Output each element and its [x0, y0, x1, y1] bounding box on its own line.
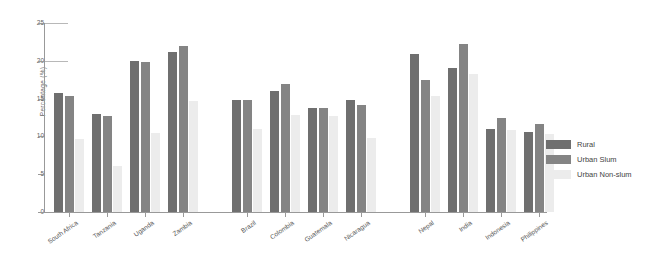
bar-group — [168, 23, 198, 212]
y-gridline-stub — [45, 61, 68, 62]
bar — [54, 93, 63, 212]
chart-legend: RuralUrban SlumUrban Non-slum — [546, 137, 632, 182]
y-tick: 20 — [0, 61, 44, 62]
x-tick-mark — [183, 213, 184, 217]
plot-area — [45, 23, 547, 212]
bar — [431, 96, 440, 212]
x-axis-category-label: Zambia — [171, 219, 193, 237]
x-tick-mark — [323, 213, 324, 217]
bar — [232, 100, 241, 212]
x-axis-category-label: Uganda — [132, 219, 155, 238]
bar — [535, 124, 544, 212]
bar — [346, 100, 355, 212]
bar-group — [486, 23, 516, 212]
legend-swatch — [546, 155, 571, 164]
y-tick: 15 — [0, 99, 44, 100]
x-tick-mark — [463, 213, 464, 217]
x-tick-mark — [361, 213, 362, 217]
y-tick: 5 — [0, 174, 44, 175]
bar — [507, 130, 516, 212]
x-axis-category-label: Indonesia — [484, 219, 511, 241]
bar — [486, 129, 495, 212]
bar — [367, 138, 376, 212]
x-axis-category-label: Colombia — [268, 219, 295, 240]
bar-group — [54, 23, 84, 212]
legend-label: Urban Slum — [577, 155, 617, 164]
x-tick-mark — [107, 213, 108, 217]
bar-group — [92, 23, 122, 212]
y-tick-mark — [38, 174, 44, 175]
bar — [168, 52, 177, 212]
bar — [141, 62, 150, 212]
x-tick-mark — [247, 213, 248, 217]
legend-item[interactable]: Rural — [546, 137, 632, 152]
bar-group — [130, 23, 160, 212]
bar — [357, 105, 366, 212]
bar — [281, 84, 290, 212]
bar — [130, 61, 139, 212]
legend-label: Urban Non-slum — [577, 170, 632, 179]
bar-group — [346, 23, 376, 212]
x-tick-mark — [285, 213, 286, 217]
bar — [497, 118, 506, 212]
x-tick-mark — [69, 213, 70, 217]
bar — [189, 101, 198, 212]
y-gridline-stub — [45, 23, 68, 24]
x-axis-category-label: Nepal — [417, 219, 435, 234]
bar — [410, 54, 419, 212]
x-axis-category-label: South Africa — [46, 219, 79, 245]
bar-group — [232, 23, 262, 212]
bar — [524, 132, 533, 212]
bar — [103, 116, 112, 212]
bar-chart: Percentage (%) 0510152025 South AfricaTa… — [0, 0, 658, 263]
y-tick: 25 — [0, 23, 44, 24]
x-tick-mark — [539, 213, 540, 217]
y-tick: 0 — [0, 212, 44, 213]
legend-item[interactable]: Urban Non-slum — [546, 167, 632, 182]
x-axis-category-label: India — [457, 219, 473, 233]
bar — [113, 166, 122, 212]
x-axis-category-label: Nicaragua — [343, 219, 371, 242]
y-tick-mark — [38, 23, 44, 24]
legend-label: Rural — [577, 140, 595, 149]
bar — [253, 129, 262, 212]
bar — [65, 96, 74, 212]
x-tick-mark — [425, 213, 426, 217]
x-axis-category-label: Tanzania — [92, 219, 117, 240]
bar — [270, 91, 279, 212]
bar — [243, 100, 252, 212]
bar — [151, 133, 160, 212]
x-axis-category-label: Philippines — [519, 219, 549, 243]
bar-group — [448, 23, 478, 212]
legend-item[interactable]: Urban Slum — [546, 152, 632, 167]
x-tick-mark — [145, 213, 146, 217]
bar — [459, 44, 468, 212]
bar-group — [524, 23, 554, 212]
bar — [92, 114, 101, 212]
bar-group — [410, 23, 440, 212]
y-tick-mark — [38, 99, 44, 100]
bar-group — [308, 23, 338, 212]
bar — [329, 116, 338, 212]
bar — [75, 139, 84, 212]
bar — [469, 74, 478, 212]
bar — [291, 115, 300, 212]
legend-swatch — [546, 170, 571, 179]
legend-swatch — [546, 140, 571, 149]
x-tick-mark — [501, 213, 502, 217]
x-axis-category-label: Guatemala — [303, 219, 333, 243]
y-tick-mark — [38, 61, 44, 62]
bar — [319, 108, 328, 212]
x-axis-line — [44, 212, 547, 213]
bar — [448, 68, 457, 212]
y-tick-mark — [38, 136, 44, 137]
bar — [308, 108, 317, 212]
x-axis-category-label: Brazil — [240, 219, 257, 234]
y-tick: 10 — [0, 136, 44, 137]
bar — [421, 80, 430, 212]
bar — [179, 46, 188, 212]
bar-group — [270, 23, 300, 212]
